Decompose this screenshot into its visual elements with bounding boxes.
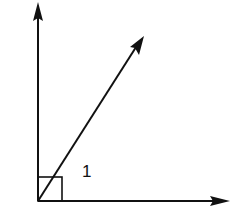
angle-label: 1 (82, 163, 91, 180)
angle-diagram (0, 0, 245, 209)
arrowhead-right-icon (210, 196, 230, 206)
